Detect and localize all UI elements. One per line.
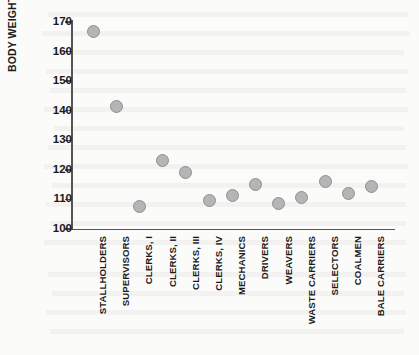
data-point — [156, 154, 169, 167]
x-axis-category-label: STALLHOLDERS — [97, 236, 108, 355]
data-point — [249, 178, 262, 191]
y-axis-tick-label: 140 — [42, 105, 72, 117]
data-point — [365, 180, 378, 193]
y-axis-tick-label: 110 — [42, 193, 72, 205]
y-axis-tick-label: 120 — [42, 164, 72, 176]
data-point — [203, 194, 216, 207]
data-point — [226, 189, 239, 202]
x-axis-category-label: MECHANICS — [236, 236, 247, 355]
x-axis-category-label: COALMEN — [352, 236, 363, 355]
data-point — [319, 175, 332, 188]
x-axis-category-label: SELECTORS — [329, 236, 340, 355]
y-axis-tick-label: 160 — [42, 46, 72, 58]
x-axis-category-label: BALE CARRIERS — [375, 236, 386, 355]
data-point — [342, 187, 355, 200]
y-axis-tick-label: 100 — [42, 223, 72, 235]
x-axis-category-label: WEAVERS — [283, 236, 294, 355]
data-point — [133, 200, 146, 213]
data-point — [272, 197, 285, 210]
chart-figure: BODY WEIGHT (LBS.) 100110120130140150160… — [0, 0, 419, 355]
data-point — [110, 100, 123, 113]
x-axis-category-label: CLERKS, IV — [213, 236, 224, 355]
data-point — [295, 191, 308, 204]
y-axis-title: BODY WEIGHT (LBS.) — [6, 0, 18, 72]
y-axis-tick-label: 150 — [42, 75, 72, 87]
y-axis-tick-label: 170 — [42, 16, 72, 28]
x-axis-category-label: CLERKS, III — [190, 236, 201, 355]
x-axis-category-label: WASTE CARRIERS — [306, 236, 317, 355]
x-axis-category-label: CLERKS, I — [143, 236, 154, 355]
y-axis-tick-label: 130 — [42, 134, 72, 146]
x-axis-category-label: CLERKS, II — [167, 236, 178, 355]
data-point — [87, 25, 100, 38]
x-axis-category-label: DRIVERS — [259, 236, 270, 355]
data-point — [179, 166, 192, 179]
x-axis-line — [71, 229, 395, 231]
x-axis-category-label: SUPERVISORS — [120, 236, 131, 355]
